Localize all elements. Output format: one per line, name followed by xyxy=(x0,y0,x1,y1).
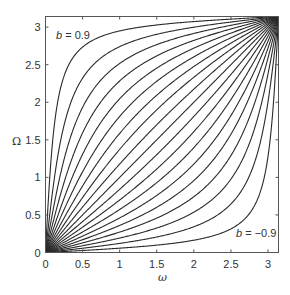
x-tick-label: 0.5 xyxy=(75,258,90,270)
x-tick-label: 2 xyxy=(191,258,197,270)
y-tick-label: 2.5 xyxy=(25,59,40,71)
y-tick-label: 1 xyxy=(34,171,40,183)
annotation-b-value: = −0.9 xyxy=(242,227,276,239)
x-tick-label: 2.5 xyxy=(223,258,238,270)
warping-curve xyxy=(46,17,279,253)
annotation-b-value: = 0.9 xyxy=(62,29,90,41)
x-tick-label: 1 xyxy=(117,258,123,270)
x-tick-label: 0 xyxy=(42,258,48,270)
curve-series-group xyxy=(46,17,279,253)
x-tick-label: 3 xyxy=(265,258,271,270)
x-tick-label: 1.5 xyxy=(149,258,164,270)
x-axis-label: ω xyxy=(158,271,167,284)
warping-chart: 00.511.522.53 00.511.522.53 Ω ω b = 0.9 … xyxy=(0,0,290,295)
y-tick-label: 0.5 xyxy=(25,209,40,221)
annotation-b-positive: b = 0.9 xyxy=(56,29,90,41)
annotation-b-negative: b = −0.9 xyxy=(236,227,276,239)
y-axis-label: Ω xyxy=(12,135,21,148)
y-tick-label: 0 xyxy=(34,247,40,259)
y-tick-label: 3 xyxy=(34,21,40,33)
y-tick-label: 1.5 xyxy=(25,134,40,146)
y-tick-label: 2 xyxy=(34,96,40,108)
